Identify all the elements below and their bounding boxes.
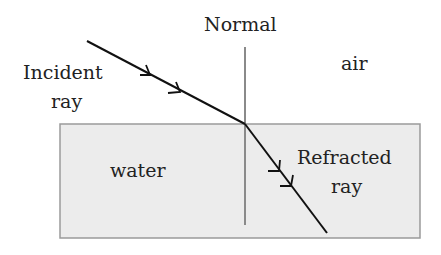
water-label: water [110,159,166,181]
incident-ray [87,41,245,124]
incident-label-line1: Incident [23,61,103,83]
refraction-diagram: Normal air Incident ray water Refracted … [0,0,441,255]
water-region [60,124,420,238]
air-label: air [341,52,368,74]
refracted-label-line1: Refracted [297,146,392,168]
normal-label: Normal [204,13,277,35]
refracted-label-line2: ray [331,175,362,197]
incident-label-line2: ray [51,90,82,112]
